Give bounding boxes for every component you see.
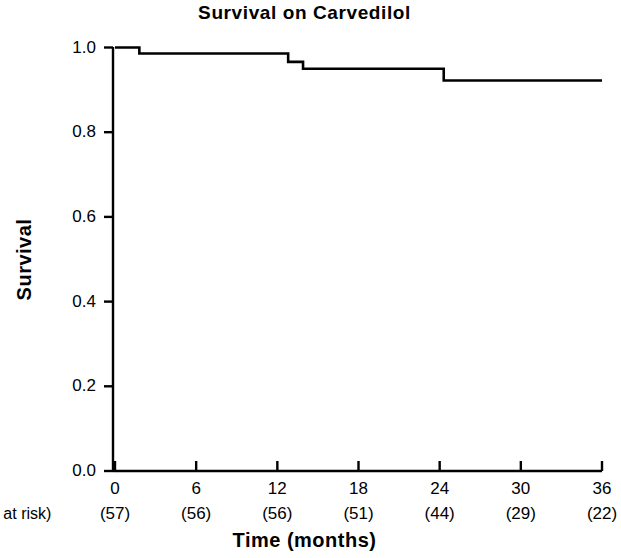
x-axis-tick-label: 18 bbox=[329, 480, 389, 497]
y-axis-tick-label: 0.4 bbox=[40, 293, 96, 310]
x-axis-tick-label: 24 bbox=[410, 480, 470, 497]
x-axis-tick-label: 12 bbox=[247, 480, 307, 497]
y-axis-tick-label: 0.6 bbox=[40, 208, 96, 225]
at-risk-value: (22) bbox=[571, 505, 621, 522]
axes-group bbox=[113, 47, 602, 471]
at-risk-value: (56) bbox=[165, 505, 227, 522]
x-axis-tick-label: 30 bbox=[491, 480, 551, 497]
survival-step-curve bbox=[115, 48, 602, 81]
x-axis-tick-label: 6 bbox=[166, 480, 226, 497]
at-risk-value: (56) bbox=[246, 505, 308, 522]
y-axis-tick-label: 0.2 bbox=[40, 377, 96, 394]
at-risk-value: (44) bbox=[409, 505, 471, 522]
y-axis-tick-label: 1.0 bbox=[40, 39, 96, 56]
x-axis-tick-label: 0 bbox=[85, 480, 145, 497]
y-axis-ticks bbox=[104, 48, 113, 472]
x-axis-ticks bbox=[115, 461, 602, 471]
at-risk-value: (51) bbox=[328, 505, 390, 522]
x-axis-tick-label: 36 bbox=[572, 480, 621, 497]
at-risk-value: (29) bbox=[490, 505, 552, 522]
at-risk-value: (57) bbox=[84, 505, 146, 522]
y-axis-tick-label: 0.0 bbox=[40, 462, 96, 479]
y-axis-tick-label: 0.8 bbox=[40, 123, 96, 140]
